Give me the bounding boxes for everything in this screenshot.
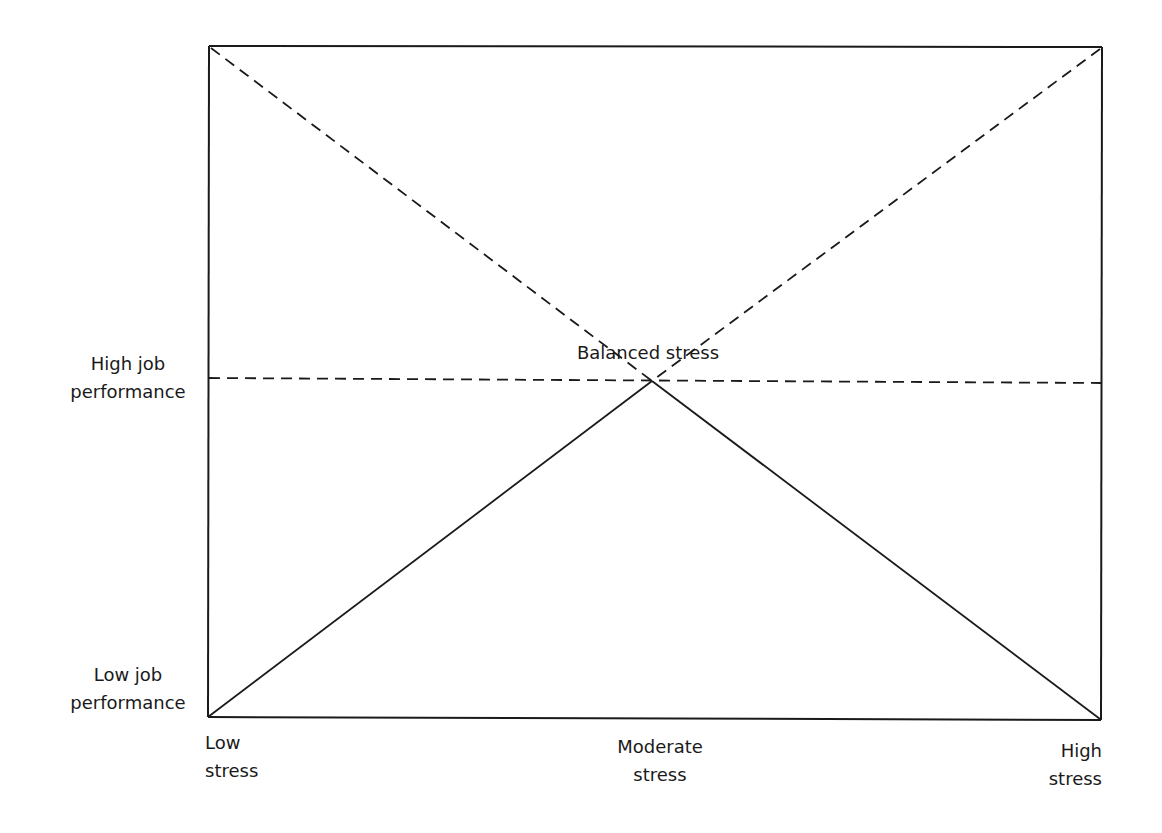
- peak-label-text: Balanced stress: [568, 339, 728, 367]
- frame-bottom-axis: [208, 717, 1101, 720]
- dashed-diagonal-right: [652, 49, 1100, 381]
- y-label-high-line2: performance: [52, 378, 204, 406]
- performance-curve: [208, 381, 1100, 719]
- peak-label: Balanced stress: [568, 339, 728, 367]
- y-label-high-line1: High job: [52, 350, 204, 378]
- x-label-high-stress: High stress: [1040, 737, 1102, 793]
- x-label-high-line1: High: [1040, 737, 1102, 765]
- frame-left-axis: [208, 46, 209, 717]
- dashed-diagonal-left: [211, 48, 652, 381]
- y-label-low-line2: performance: [52, 689, 204, 717]
- x-label-low-stress: Low stress: [205, 729, 258, 785]
- y-label-low-performance: Low job performance: [52, 661, 204, 717]
- curve-rising: [208, 381, 652, 717]
- x-label-moderate-stress: Moderate stress: [590, 733, 730, 789]
- frame-right: [1101, 47, 1102, 720]
- dashed-guides: [209, 48, 1101, 383]
- x-label-moderate-line2: stress: [590, 761, 730, 789]
- y-label-low-line1: Low job: [52, 661, 204, 689]
- curve-falling: [652, 381, 1100, 719]
- frame-top: [209, 46, 1102, 47]
- x-label-low-line2: stress: [205, 757, 258, 785]
- x-label-moderate-line1: Moderate: [590, 733, 730, 761]
- x-label-high-line2: stress: [1040, 765, 1102, 793]
- x-label-low-line1: Low: [205, 729, 258, 757]
- y-label-high-performance: High job performance: [52, 350, 204, 406]
